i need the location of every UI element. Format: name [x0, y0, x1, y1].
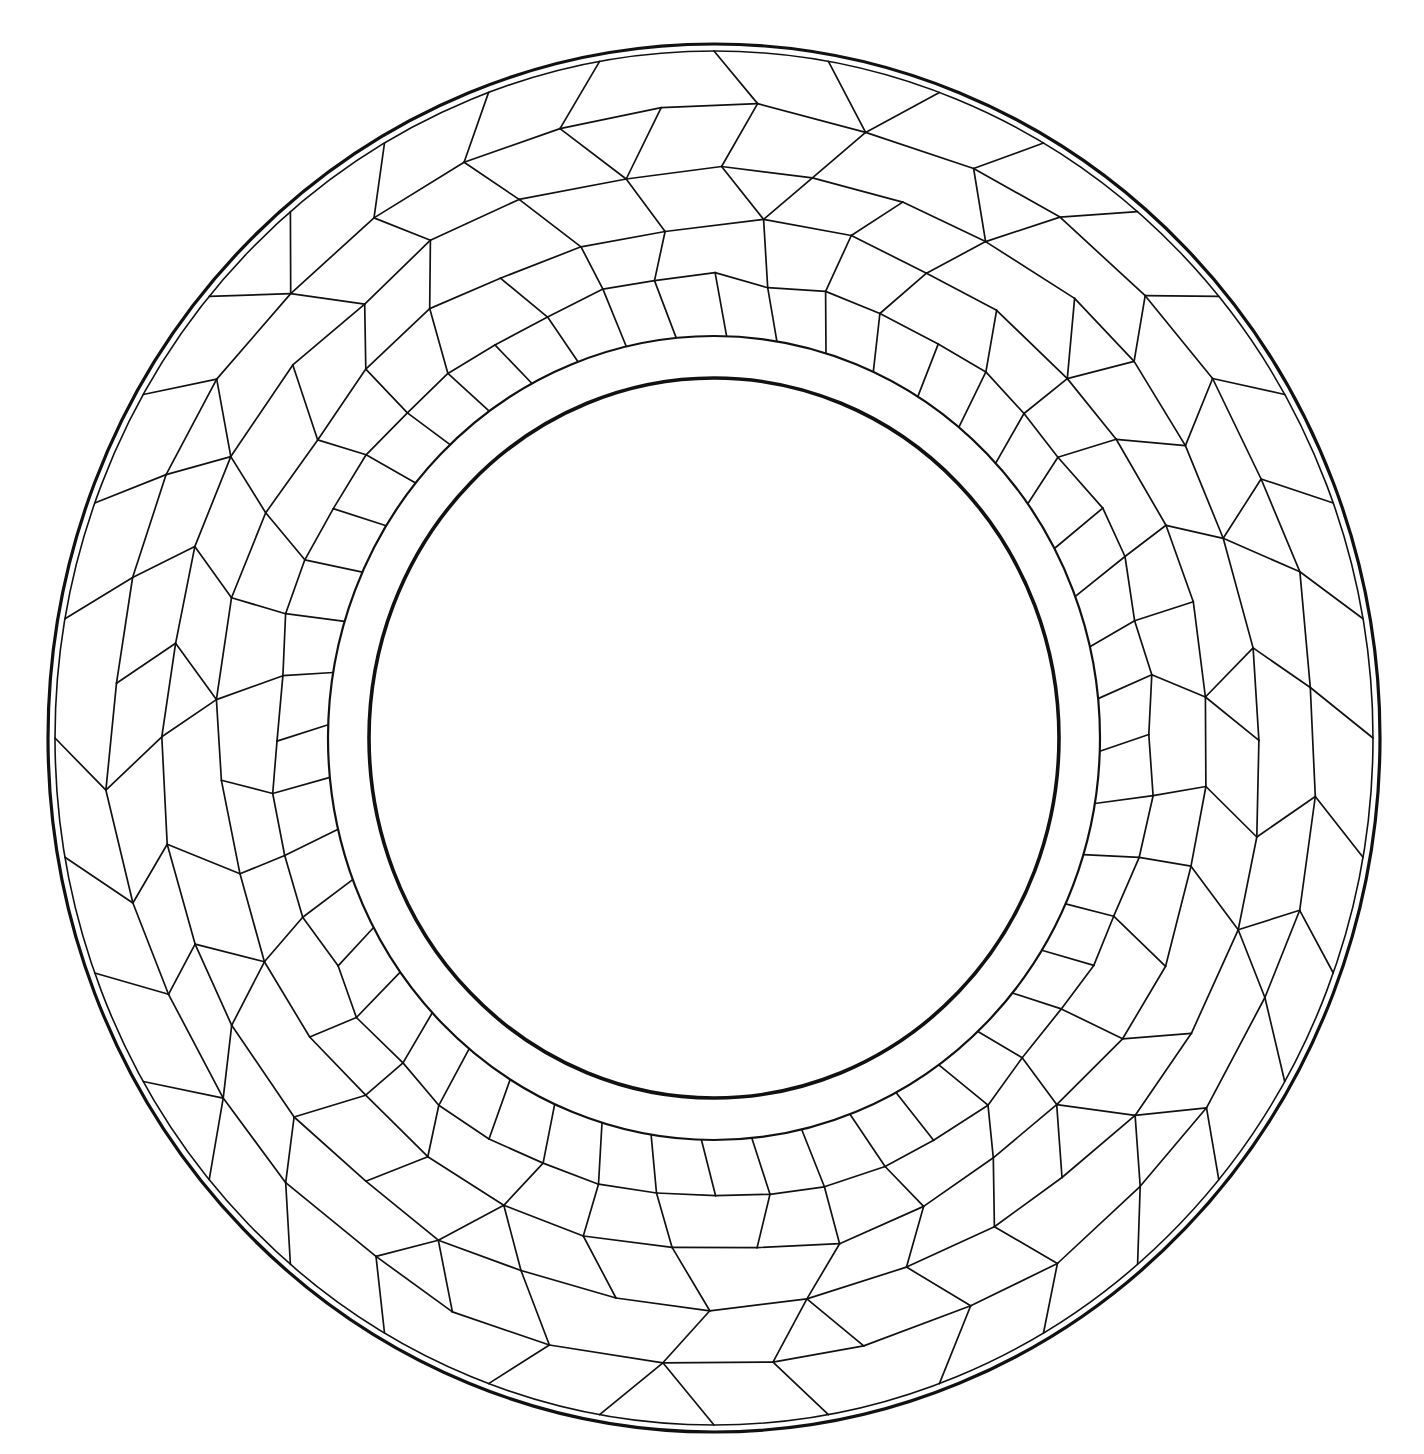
cell-edge	[974, 169, 1060, 218]
cell-edge	[757, 1244, 840, 1248]
cell-edge	[663, 1363, 714, 1425]
cell-edge	[657, 1193, 673, 1247]
cell-edge	[318, 440, 366, 455]
cell-edge	[1139, 796, 1153, 858]
cell-edge	[464, 162, 519, 199]
cell-edge	[1213, 379, 1262, 480]
cell-edge	[286, 614, 345, 622]
cell-edge	[626, 179, 665, 232]
cell-edge	[366, 455, 416, 483]
cell-edge	[333, 455, 366, 509]
cell-edge	[1139, 857, 1191, 866]
cell-edge	[1185, 379, 1212, 446]
cell-edge	[403, 1063, 439, 1105]
cell-edge	[277, 676, 283, 741]
cell-edge	[873, 314, 880, 372]
cell-edge	[560, 108, 661, 129]
cell-edge	[661, 104, 757, 108]
cell-edge	[1191, 930, 1238, 1034]
cell-edge	[1149, 675, 1152, 735]
cell-edge	[366, 1095, 428, 1157]
cell-edge	[583, 1184, 598, 1236]
cell-edge	[543, 1104, 555, 1163]
cell-edge	[366, 309, 430, 370]
cell-edge	[1166, 866, 1191, 966]
cell-edge	[133, 903, 169, 994]
cell-edge	[430, 278, 501, 308]
cell-edge	[880, 273, 927, 313]
cell-edge	[974, 169, 986, 242]
cell-edge	[366, 1063, 403, 1095]
cell-edge	[1054, 508, 1102, 548]
cell-edge	[65, 857, 133, 903]
cell-edge	[376, 1256, 452, 1312]
cell-edge	[1152, 675, 1206, 697]
cell-edge	[1062, 1115, 1135, 1177]
cell-edge	[1191, 787, 1206, 867]
cell-edge	[548, 317, 578, 362]
cell-edge	[143, 1082, 223, 1099]
plate-center-circle	[369, 378, 1059, 1098]
cell-edge	[934, 1105, 988, 1140]
cell-edge	[1223, 538, 1253, 648]
cell-edge	[715, 273, 768, 288]
cell-edge	[489, 1139, 543, 1163]
cell-edge	[285, 829, 338, 855]
cell-edge	[840, 1206, 924, 1243]
cell-edge	[768, 288, 777, 342]
cell-edge	[626, 108, 661, 179]
cell-edge	[209, 1098, 223, 1180]
cell-edge	[714, 51, 758, 104]
cell-edge	[310, 1018, 357, 1038]
cell-edge	[1012, 993, 1061, 1009]
cell-edge	[1125, 557, 1135, 621]
cell-edge	[195, 944, 232, 1025]
cell-edge	[403, 1013, 432, 1063]
cell-edge	[438, 1240, 521, 1270]
cell-edge	[266, 440, 318, 513]
cell-edge	[616, 1298, 710, 1311]
cell-edge	[169, 944, 196, 994]
cell-edge	[549, 1345, 663, 1363]
cell-edge	[143, 379, 216, 394]
cell-edge	[1116, 439, 1166, 525]
cell-edge	[716, 1194, 770, 1195]
cell-edge	[866, 132, 974, 168]
cell-edge	[1058, 439, 1116, 457]
cell-edge	[665, 219, 764, 231]
cell-edge	[851, 236, 926, 274]
cell-edge	[1205, 648, 1253, 697]
cell-edge	[1191, 866, 1238, 930]
cell-edge	[996, 414, 1024, 464]
cell-edge	[885, 1167, 924, 1207]
cell-edge	[195, 457, 231, 547]
cell-edge	[757, 1194, 770, 1247]
cell-edge	[701, 1140, 715, 1196]
cell-edge	[430, 240, 431, 308]
cell-edge	[291, 294, 365, 305]
cell-edge	[95, 475, 166, 503]
cell-edge	[986, 217, 1060, 242]
cell-edge	[1083, 855, 1139, 858]
cell-edge	[1057, 1039, 1123, 1105]
cell-edge	[1253, 648, 1259, 741]
cell-edge	[231, 365, 293, 457]
cell-edge	[1166, 525, 1193, 601]
cell-edge	[1206, 787, 1257, 838]
cell-edge	[1265, 998, 1285, 1082]
cell-edge	[907, 1227, 995, 1267]
cell-edge	[959, 372, 986, 427]
cell-edge	[277, 725, 328, 741]
cell-edge	[167, 844, 195, 944]
cell-edge	[464, 129, 560, 163]
cell-edge	[286, 1117, 294, 1183]
cell-edge	[1067, 298, 1074, 378]
cell-edge	[1114, 857, 1140, 916]
cell-edge	[1223, 479, 1261, 538]
cell-edge	[851, 202, 902, 235]
cell-edge	[812, 178, 902, 202]
cell-edge	[448, 373, 489, 411]
cell-edge	[1315, 797, 1363, 858]
cell-edge	[232, 1025, 294, 1117]
cell-edge	[994, 1227, 1057, 1264]
